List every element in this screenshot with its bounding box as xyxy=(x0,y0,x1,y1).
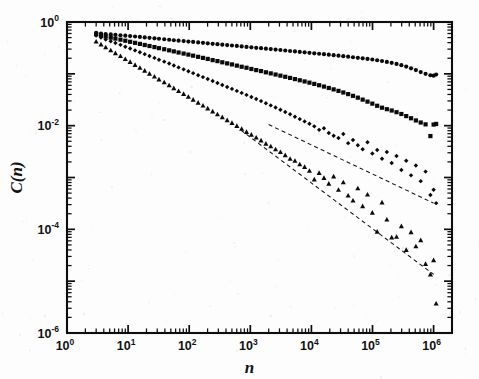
loglog-scatter-plot: 10010110210310410510610010-210-410-6 nC(… xyxy=(0,0,479,379)
figure-canvas: 10010110210310410510610010-210-410-6 nC(… xyxy=(0,0,479,379)
x-axis-title: n xyxy=(245,358,254,377)
y-axis-title: C(n) xyxy=(7,161,26,193)
plot-background xyxy=(0,0,479,379)
